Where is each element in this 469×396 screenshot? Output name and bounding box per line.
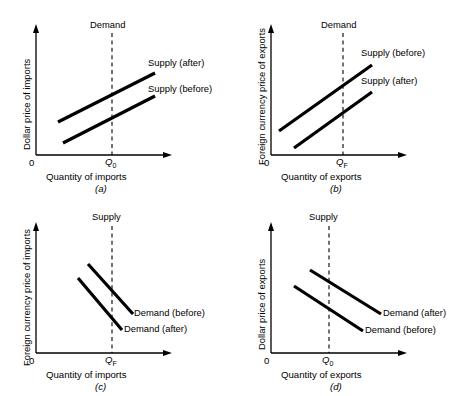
supply-after-label-a: Supply (after) <box>148 58 204 68</box>
origin-label-b: 0 <box>264 158 269 168</box>
four-panel-economics-figure: Dollar price of imports Demand Supply (a… <box>0 0 469 396</box>
x-axis-arrow-c <box>163 350 172 356</box>
demand-after-curve-c <box>78 278 122 330</box>
y-axis-arrow-b <box>268 24 274 33</box>
q-subscript-b: F <box>343 162 347 170</box>
panel-d: Dollar price of exports Supply Demand (a… <box>235 198 469 396</box>
q-subscript-d: 0 <box>329 360 333 368</box>
demand-after-label-d: Demand (after) <box>383 308 446 318</box>
supply-before-label-b: Supply (before) <box>361 48 425 58</box>
panel-caption-b: (b) <box>330 184 342 194</box>
panel-c: Foreign currency price of imports Supply… <box>0 198 234 396</box>
demand-after-curve-d <box>310 270 381 314</box>
x-axis-label-b: Quantity of exports <box>281 172 362 182</box>
x-axis-label-d: Quantity of exports <box>281 370 362 380</box>
panel-caption-d: (d) <box>330 382 342 392</box>
demand-after-label-c: Demand (after) <box>124 324 187 334</box>
supply-after-curve-b <box>294 92 372 148</box>
demand-before-curve-c <box>88 264 133 314</box>
q-label-d: Q0 <box>322 355 333 368</box>
panel-a: Dollar price of imports Demand Supply (a… <box>0 0 234 198</box>
y-axis-label-a: Dollar price of imports <box>22 59 32 150</box>
panel-c-plot <box>0 198 234 396</box>
x-axis-arrow-d <box>398 350 407 356</box>
supply-before-curve-a <box>63 96 155 143</box>
q-label-b: QF <box>336 157 348 170</box>
panel-caption-a: (a) <box>95 184 107 194</box>
demand-before-label-d: Demand (before) <box>365 325 436 335</box>
demand-before-label-c: Demand (before) <box>134 308 205 318</box>
origin-label-a: 0 <box>29 158 34 168</box>
origin-label-c: 0 <box>29 356 34 366</box>
y-axis-label-b: Foreign currency price of exports <box>257 28 267 165</box>
q-label-a: Q0 <box>105 157 116 170</box>
supply-line-label-d: Supply <box>309 212 338 222</box>
origin-label-d: 0 <box>264 356 269 366</box>
supply-after-label-b: Supply (after) <box>361 76 417 86</box>
q-subscript-a: 0 <box>112 162 116 170</box>
q-label-c: QF <box>105 355 117 368</box>
y-axis-arrow-a <box>33 24 39 33</box>
supply-before-curve-b <box>279 65 372 131</box>
x-axis-label-c: Quantity of imports <box>46 370 127 380</box>
panel-d-plot <box>235 198 469 396</box>
supply-line-label-c: Supply <box>92 212 121 222</box>
x-axis-label-a: Quantity of imports <box>46 172 127 182</box>
supply-before-label-a: Supply (before) <box>148 84 212 94</box>
panel-caption-c: (c) <box>95 382 106 392</box>
y-axis-arrow-d <box>268 222 274 231</box>
y-axis-label-c: Foreign currency price of imports <box>22 229 32 366</box>
demand-line-label-a: Demand <box>90 20 125 30</box>
supply-after-curve-a <box>58 73 155 122</box>
x-axis-arrow-a <box>163 152 172 158</box>
demand-line-label-b: Demand <box>321 20 356 30</box>
y-axis-arrow-c <box>33 222 39 231</box>
q-subscript-c: F <box>112 360 116 368</box>
panel-b: Foreign currency price of exports Demand… <box>235 0 469 198</box>
x-axis-arrow-b <box>398 152 407 158</box>
y-axis-label-d: Dollar price of exports <box>257 259 267 350</box>
